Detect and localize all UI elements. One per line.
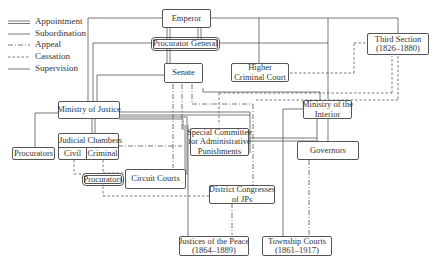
node-ministry-of-justice: Ministry of Justice <box>58 101 120 119</box>
solid-line-icon <box>8 31 30 37</box>
legend-label: Supervision <box>35 63 78 75</box>
node-label-line2: Interior <box>315 110 341 120</box>
civil-division: Civil <box>59 148 87 159</box>
node-procurators-inner: Procurators <box>84 175 122 184</box>
legend-label: Cassation <box>35 51 70 63</box>
node-justices-of-peace: Justices of the Peace (1864–1889) <box>179 236 249 256</box>
legend-label: Appointment <box>35 16 83 28</box>
legend-label: Appeal <box>35 39 61 51</box>
legend: Appointment Subordination Appeal Cassati… <box>8 16 86 74</box>
node-label-line2: (1864–1889) <box>192 246 236 256</box>
node-label-line2: of JPs <box>232 195 253 205</box>
node-label: Procurators <box>14 149 53 159</box>
judicial-chambers-title: Judicial Chambers <box>59 134 118 148</box>
legend-item-cassation: Cassation <box>8 51 86 63</box>
node-label: Procurator General <box>153 39 218 49</box>
solid-line-icon <box>8 66 30 72</box>
node-ministry-of-interior: Ministry of the Interior <box>303 100 352 119</box>
judicial-chambers-divisions: Civil Criminal <box>59 148 118 159</box>
criminal-division: Criminal <box>87 148 118 159</box>
dash-dot-line-icon <box>8 42 30 48</box>
node-township-courts: Township Courts (1861–1917) <box>262 236 332 256</box>
node-senate: Senate <box>164 63 203 83</box>
node-circuit-courts: Circuit Courts <box>125 169 186 189</box>
legend-item-appeal: Appeal <box>8 39 86 51</box>
legend-item-appointment: Appointment <box>8 16 86 28</box>
node-label-line2: (1861–1917) <box>275 246 319 256</box>
node-special-committee: Special Committee for Administrative Pun… <box>190 128 249 156</box>
node-label: Governors <box>310 146 346 156</box>
node-district-congresses: District Congresses of JPs <box>209 185 275 204</box>
node-label: Procurators <box>83 175 122 185</box>
node-label-line2: (1826–1880) <box>376 44 420 54</box>
node-label: Circuit Courts <box>131 174 179 184</box>
node-governors: Governors <box>297 141 359 160</box>
legend-label: Subordination <box>35 28 86 40</box>
node-procurators-left: Procurators <box>12 147 55 160</box>
legend-item-subordination: Subordination <box>8 28 86 40</box>
node-third-section: Third Section (1826–1880) <box>367 33 429 55</box>
node-label-line3: Punishments <box>198 147 241 157</box>
node-label: Senate <box>172 68 195 78</box>
node-emperor: Emperor <box>162 9 211 28</box>
node-label: Emperor <box>172 14 202 24</box>
node-procurator-general: Procurator General <box>153 39 218 49</box>
dashed-line-icon <box>8 54 30 60</box>
legend-item-supervision: Supervision <box>8 63 86 75</box>
double-line-icon <box>8 19 30 25</box>
node-judicial-chambers: Judicial Chambers Civil Criminal <box>58 133 119 160</box>
node-label: Ministry of Justice <box>57 105 121 115</box>
node-label-line2: Criminal Court <box>234 73 286 83</box>
node-higher-criminal-court: Higher Criminal Court <box>231 63 289 82</box>
